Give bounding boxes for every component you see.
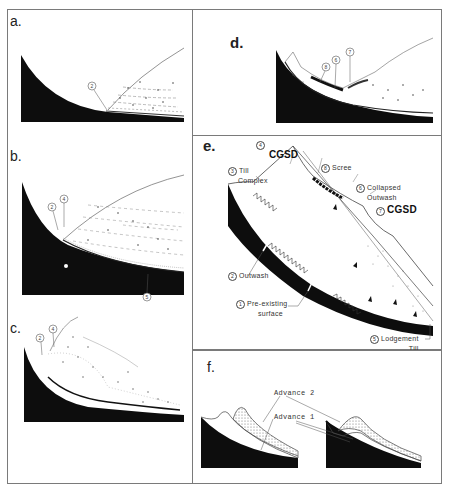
label-circle-4: 4 xyxy=(256,141,267,150)
svg-text:8: 8 xyxy=(325,64,328,70)
label-advance-1: Advance 1 xyxy=(274,413,315,421)
panel-f: f. Advance 2 Advance 1 xyxy=(192,350,442,484)
svg-text:2: 2 xyxy=(39,335,42,341)
label-cgsd-right: 7CGSD xyxy=(376,204,417,216)
svg-text:5: 5 xyxy=(146,294,149,300)
svg-text:7: 7 xyxy=(349,49,352,55)
panel-f-drawing xyxy=(193,351,443,485)
panel-a-drawing: 2 xyxy=(8,10,193,136)
svg-text:6: 6 xyxy=(335,57,338,63)
panel-d-drawing: 8 6 7 xyxy=(193,10,443,136)
label-advance-2: Advance 2 xyxy=(274,389,315,397)
svg-text:4: 4 xyxy=(63,196,66,202)
label-collapsed-outwash: 6Collapsed Outwash xyxy=(356,183,401,202)
panel-b-drawing: 2 4 5 xyxy=(8,135,193,307)
label-scree: 8Scree xyxy=(321,164,352,173)
label-pre-existing-surface: 1Pre-existing surface xyxy=(236,299,288,319)
label-outwash: 2Outwash xyxy=(228,272,269,281)
svg-text:4: 4 xyxy=(52,326,55,332)
panel-c: c. 2 4 xyxy=(7,307,192,484)
panel-e: e. 4 CGSD xyxy=(192,135,442,350)
panel-d: d. 8 6 7 xyxy=(192,9,442,135)
panel-b: b. 2 4 5 xyxy=(7,135,192,307)
svg-text:2: 2 xyxy=(51,204,54,210)
label-till-complex: 3Till Complex xyxy=(228,166,268,185)
panel-a: a. 2 xyxy=(7,9,192,135)
label-cgsd-top: CGSD xyxy=(269,149,298,160)
panel-c-drawing: 2 4 xyxy=(8,307,193,484)
svg-text:2: 2 xyxy=(91,83,94,89)
